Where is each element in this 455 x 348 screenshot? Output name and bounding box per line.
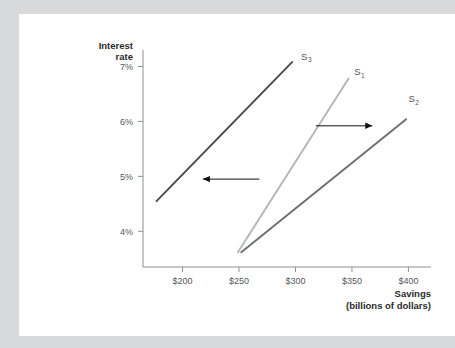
x-axis-title: Savings (billions of dollars): [346, 288, 431, 311]
y-axis-title: Interest rate: [99, 40, 134, 62]
y-tick-label: 5%: [120, 172, 133, 182]
curve-label-S3: S3: [301, 51, 312, 64]
figure-card: Interest rate 4%5%6%7% $200$250$300$350$…: [19, 14, 455, 336]
x-axis-title-line2: (billions of dollars): [346, 300, 431, 311]
supply-curve-chart: Interest rate 4%5%6%7% $200$250$300$350$…: [19, 14, 455, 336]
x-tick-label: $300: [285, 276, 305, 286]
supply-curve-S3: [157, 62, 293, 201]
curve-label-S1: S1: [354, 66, 365, 79]
curve-label-group: S3S1S2: [301, 51, 419, 106]
y-tick-label: 6%: [120, 117, 133, 127]
x-axis-title-line1: Savings: [395, 288, 431, 299]
shift-left-arrow-head: [203, 176, 210, 182]
y-axis-title-line2: rate: [116, 51, 133, 62]
x-tick-label: $350: [342, 276, 362, 286]
supply-curve-S1: [238, 79, 349, 253]
y-axis-title-line1: Interest: [99, 40, 134, 51]
y-tick-label: 7%: [120, 62, 133, 72]
curve-label-S2: S2: [408, 93, 419, 106]
y-tick-group: 4%5%6%7%: [120, 62, 143, 237]
supply-curves: [157, 62, 407, 252]
x-tick-label: $200: [173, 276, 193, 286]
shift-right-arrow-head: [365, 123, 372, 129]
x-tick-label: $250: [229, 276, 249, 286]
y-tick-label: 4%: [120, 227, 133, 237]
x-tick-group: $200$250$300$350$400: [173, 267, 419, 286]
supply-curve-S2: [241, 119, 406, 252]
chart-axes: [143, 50, 431, 267]
x-tick-label: $400: [398, 276, 418, 286]
